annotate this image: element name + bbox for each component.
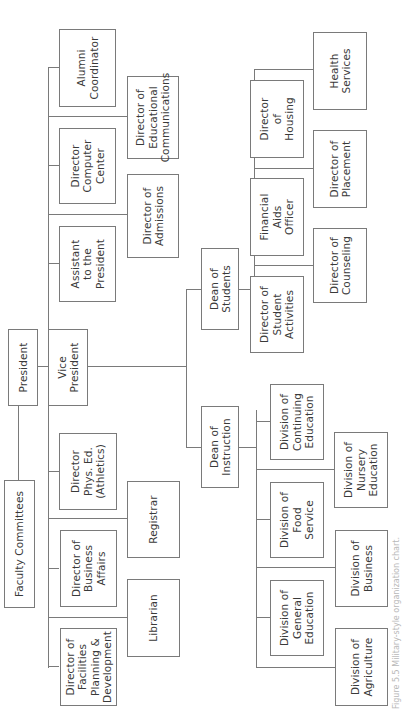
org-chart: Faculty Committees President Vice Presid… xyxy=(0,0,407,717)
connector-physed xyxy=(48,471,59,472)
node-health-services: Health Services xyxy=(313,32,367,110)
connector-instruction-stem xyxy=(239,447,256,448)
node-director-housing: Director of Housing xyxy=(250,80,304,158)
node-division-business: Division of Business xyxy=(335,530,388,607)
connector-division-business xyxy=(256,567,335,568)
node-director-educational-communications: Director of Educational Communications xyxy=(127,76,179,159)
connector-health xyxy=(254,69,313,70)
connector-counseling xyxy=(254,265,313,266)
connector-educational-communications xyxy=(48,116,127,117)
node-vice-president: Vice President xyxy=(48,329,88,406)
connector-instruction-spine xyxy=(256,410,257,668)
connector-deans-spine xyxy=(186,290,187,448)
connector-continuing xyxy=(256,421,270,422)
connector-general xyxy=(256,617,270,618)
connector-nursery xyxy=(256,469,334,470)
node-director-phys-ed: Director Phys. Ed. (Athletics) xyxy=(59,433,117,510)
node-dean-of-instruction: Dean of Instruction xyxy=(201,406,239,488)
connector-facilities xyxy=(48,666,59,667)
connector-assistant xyxy=(48,263,59,264)
node-division-continuing-education: Division of Continuing Education xyxy=(270,384,324,460)
connector-president-vp xyxy=(38,366,48,367)
node-registrar: Registrar xyxy=(127,481,180,558)
connector-faculty-president xyxy=(18,406,19,480)
connector-business-affairs xyxy=(48,568,59,569)
node-alumni-coordinator: Alumni Coordinator xyxy=(59,29,116,107)
connector-admissions xyxy=(48,214,127,215)
figure-caption: Figure 5.5 Military-style organization c… xyxy=(392,537,401,709)
node-director-counseling: Director of Counseling xyxy=(313,228,367,303)
node-director-student-activities: Director of Student Activities xyxy=(250,276,304,353)
node-director-facilities: Director of Facilities Planning & Develo… xyxy=(60,628,117,706)
connector-computer xyxy=(48,165,59,166)
node-librarian: Librarian xyxy=(127,579,180,657)
node-director-admissions: Director of Admissions xyxy=(127,174,179,258)
node-division-food-service: Division of Food Service xyxy=(270,482,324,558)
node-division-general-education: Division of General Education xyxy=(270,580,324,656)
node-faculty-committees: Faculty Committees xyxy=(4,480,35,608)
node-division-nursery-education: Division of Nursery Education xyxy=(334,432,388,508)
node-director-business-affairs: Director of Business Affairs xyxy=(60,530,117,607)
node-president: President xyxy=(8,329,38,406)
node-assistant-to-president: Assistant to the President xyxy=(59,226,116,302)
connector-alumni xyxy=(48,67,59,68)
connector-placement xyxy=(254,168,313,169)
connector-agriculture xyxy=(256,667,335,668)
connector-food xyxy=(256,519,270,520)
connector-dean-instruction xyxy=(186,447,201,448)
node-division-agriculture: Division of Agriculture xyxy=(335,628,388,706)
connector-dean-students xyxy=(186,289,201,290)
node-director-placement: Director of Placement xyxy=(313,130,367,208)
connector-librarian xyxy=(48,617,127,618)
node-financial-aids-officer: Financial Aids Officer xyxy=(250,178,304,256)
connector-registrar xyxy=(48,518,127,519)
node-dean-of-students: Dean of Students xyxy=(201,248,239,330)
node-director-computer-center: Director Computer Center xyxy=(59,128,116,204)
connector-vp-deans xyxy=(88,366,186,367)
